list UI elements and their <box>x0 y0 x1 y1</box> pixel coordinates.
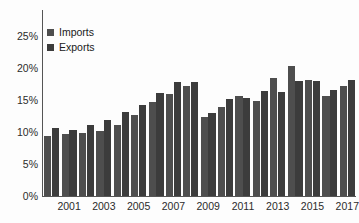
legend-swatch-icon-exports <box>47 44 54 51</box>
legend-swatch-icon-imports <box>47 29 54 36</box>
bar-imports-2002 <box>79 133 86 196</box>
bar-imports-2010 <box>218 107 225 196</box>
bar-exports-2015 <box>313 81 320 196</box>
bar-group <box>130 36 147 196</box>
bar-exports-2016 <box>330 90 337 196</box>
legend-label-exports: Exports <box>59 42 95 53</box>
x-axis-tick-label: 2017 <box>336 200 359 212</box>
bar-group <box>113 36 130 196</box>
x-axis-line <box>42 196 356 197</box>
bar-group <box>234 36 251 196</box>
x-axis-tick-label: 2011 <box>232 200 255 212</box>
bar-group <box>321 36 338 196</box>
bar-group <box>95 36 112 196</box>
bar-group <box>78 36 95 196</box>
bar-imports-2012 <box>253 101 260 196</box>
bar-imports-2015 <box>305 80 312 196</box>
bar-exports-2001 <box>69 130 76 196</box>
x-axis-tick-label: 2007 <box>162 200 185 212</box>
bar-exports-2008 <box>191 82 198 196</box>
y-axis-tick-label: 5% <box>0 159 38 169</box>
x-axis-tick-label: 2013 <box>266 200 289 212</box>
bar-group <box>252 36 269 196</box>
y-axis-tick-labels: 0%5%10%15%20%25% <box>0 0 38 223</box>
bar-exports-2005 <box>139 105 146 196</box>
chart-legend: Imports Exports <box>47 26 95 56</box>
bar-exports-2006 <box>156 93 163 196</box>
bar-imports-2009 <box>201 117 208 196</box>
bar-group <box>60 36 77 196</box>
bar-exports-2007 <box>174 82 181 196</box>
x-axis-tick-labels: 200120032005200720092011201320152017 <box>43 200 356 220</box>
bar-group <box>147 36 164 196</box>
bar-exports-2009 <box>208 113 215 196</box>
y-axis-tick-label: 0% <box>0 191 38 201</box>
y-axis-tick-label: 10% <box>0 127 38 137</box>
bar-imports-2007 <box>166 94 173 196</box>
y-axis-tick-label: 20% <box>0 63 38 73</box>
bar-exports-2003 <box>104 120 111 196</box>
bar-group <box>200 36 217 196</box>
legend-item-imports: Imports <box>47 26 95 39</box>
y-axis-tick-label: 25% <box>0 31 38 41</box>
bar-group <box>304 36 321 196</box>
bar-group <box>339 36 356 196</box>
x-axis-tick-label: 2001 <box>57 200 80 212</box>
x-axis-tick-label: 2005 <box>127 200 150 212</box>
bar-exports-2017 <box>348 80 355 196</box>
bar-exports-2004 <box>122 112 129 196</box>
bar-imports-2005 <box>131 115 138 196</box>
bar-group <box>286 36 303 196</box>
legend-item-exports: Exports <box>47 41 95 54</box>
bar-imports-2000 <box>44 136 51 196</box>
bar-imports-2011 <box>235 96 242 196</box>
bar-exports-2002 <box>87 125 94 196</box>
bar-imports-2008 <box>183 86 190 196</box>
legend-label-imports: Imports <box>59 27 94 38</box>
bar-exports-2012 <box>261 91 268 196</box>
bar-chart: 0%5%10%15%20%25% Imports Exports 2001200… <box>0 0 359 223</box>
bar-exports-2010 <box>226 99 233 196</box>
bar-group <box>182 36 199 196</box>
bar-imports-2017 <box>340 86 347 196</box>
x-axis-tick-label: 2003 <box>92 200 115 212</box>
bar-imports-2013 <box>270 78 277 196</box>
plot-area <box>43 36 356 196</box>
y-axis-tick-label: 15% <box>0 95 38 105</box>
bar-group <box>269 36 286 196</box>
bar-exports-2013 <box>278 92 285 196</box>
bar-imports-2016 <box>322 96 329 196</box>
bar-imports-2006 <box>149 102 156 196</box>
bar-group <box>43 36 60 196</box>
bar-group <box>217 36 234 196</box>
bar-exports-2000 <box>52 128 59 196</box>
bar-imports-2003 <box>96 131 103 196</box>
bar-exports-2014 <box>295 81 302 196</box>
bar-imports-2001 <box>62 134 69 196</box>
bar-imports-2014 <box>288 66 295 196</box>
x-axis-tick-label: 2015 <box>301 200 324 212</box>
x-axis-tick-label: 2009 <box>197 200 220 212</box>
bar-exports-2011 <box>243 98 250 196</box>
bar-group <box>165 36 182 196</box>
bar-imports-2004 <box>114 125 121 196</box>
